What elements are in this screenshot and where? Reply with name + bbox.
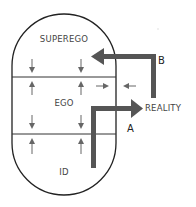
small-arrow-up-icon [29, 81, 35, 95]
speck [157, 28, 159, 30]
small-arrow-up-icon [29, 138, 35, 154]
small-arrow-down-icon [78, 59, 84, 73]
psyche-diagram: SUPEREGO EGO ID REALITY B A [0, 0, 196, 207]
small-arrow-down-icon [29, 115, 35, 129]
label-superego: SUPEREGO [40, 34, 88, 44]
small-arrow-right-icon [96, 83, 109, 89]
label-reality: REALITY [145, 103, 182, 113]
arrow-b-icon [91, 48, 156, 98]
small-arrow-up-icon [78, 138, 84, 154]
small-arrow-up-icon [78, 81, 84, 95]
small-arrow-left-icon [123, 83, 136, 89]
small-arrow-down-icon [78, 115, 84, 129]
label-arrow-a: A [127, 123, 134, 134]
label-arrow-b: B [158, 55, 165, 66]
small-arrow-down-icon [29, 59, 35, 73]
label-id: ID [59, 167, 69, 177]
label-ego: EGO [54, 98, 73, 108]
